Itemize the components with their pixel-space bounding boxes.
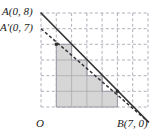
label-point-A: A(0, 8): [2, 6, 33, 17]
label-origin: O: [36, 118, 44, 129]
label-point-B: B(7, 0): [117, 118, 148, 129]
lattice-point-marker-1: [55, 43, 58, 46]
lattice-point-marker-2: [116, 90, 119, 93]
label-point-A-prime: A′(0, 7): [0, 22, 33, 33]
